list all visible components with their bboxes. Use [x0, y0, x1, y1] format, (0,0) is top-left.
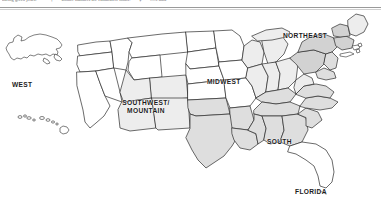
state-wisconsin	[242, 40, 264, 68]
map-figure: during given years.† = = Bolder numbers …	[0, 0, 381, 201]
footnote-part-3: = CCI data	[146, 0, 166, 2]
region-label-northeast: NORTHEAST	[283, 32, 327, 40]
region-label-west: WEST	[12, 81, 32, 89]
long-island	[340, 52, 354, 57]
region-label-south: SOUTH	[267, 138, 292, 146]
state-texas	[186, 114, 238, 168]
state-maine	[348, 14, 368, 36]
region-label-southwest-line1: SOUTHWEST/	[122, 99, 169, 106]
state-vermont-new-hampshire	[332, 24, 350, 37]
footnote-strip: during given years.† = = Bolder numbers …	[0, 0, 381, 7]
footnote-symbol-doubledagger: ‡	[139, 0, 141, 2]
coastal-island-2	[356, 49, 360, 53]
inset-alaska	[6, 34, 62, 64]
inset-hawaii	[18, 115, 69, 134]
state-colorado	[150, 75, 188, 101]
state-florida	[288, 142, 334, 188]
us-region-map: .st{stroke:#2b2b2b;stroke-width:0.7;stro…	[0, 10, 381, 201]
region-label-southwest-mountain: SOUTHWEST/ MOUNTAIN	[108, 99, 184, 115]
state-massachusetts	[334, 36, 354, 50]
state-oklahoma	[188, 98, 230, 116]
footnote-symbol-dagger: †	[51, 0, 53, 2]
footnote-part-2: = Bolder numbers are cumulative totals.	[58, 0, 130, 2]
state-tennessee	[254, 102, 300, 116]
state-wyoming	[128, 55, 162, 80]
state-minnesota	[214, 30, 244, 62]
state-iowa	[219, 60, 248, 80]
state-new-jersey	[324, 52, 338, 70]
footnote-text: during given years.† = = Bolder numbers …	[2, 0, 166, 3]
horizontal-rule-top	[0, 7, 381, 8]
region-label-southwest-line2: MOUNTAIN	[127, 107, 165, 114]
region-label-midwest: MIDWEST	[207, 78, 241, 86]
region-label-florida: FLORIDA	[295, 188, 327, 196]
state-maryland	[316, 68, 336, 80]
footnote-part-1: during given years.	[2, 0, 37, 2]
state-montana	[128, 32, 188, 58]
